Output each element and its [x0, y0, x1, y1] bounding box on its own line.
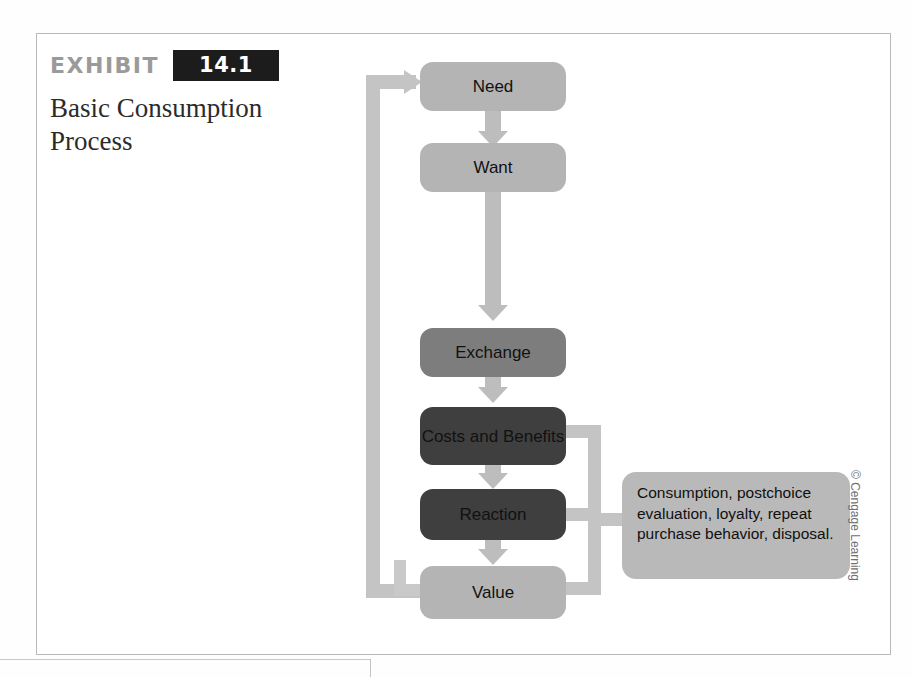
flow-node-costs-and-benefits: Costs and Benefits: [420, 407, 566, 465]
flow-node-value: Value: [420, 566, 566, 619]
flow-node-reaction: Reaction: [420, 489, 566, 540]
exhibit-title: Basic Consumption Process: [50, 92, 340, 158]
callout-bracket-arm-value: [560, 582, 601, 595]
page-fold-line-horizontal: [0, 659, 370, 660]
exhibit-number-badge: 14.1: [173, 50, 279, 81]
exhibit-header: EXHIBIT 14.1: [50, 50, 279, 81]
arrow-need-to-want-shaft: [485, 108, 501, 133]
callout-bracket-arm-reaction: [560, 508, 601, 521]
callout-consumption-outcomes: Consumption, postchoice evaluation, loya…: [622, 472, 850, 579]
arrow-costs-to-reaction-head: [478, 473, 508, 489]
page-fold-line-vertical: [370, 659, 371, 677]
arrow-exchange-to-costs-head: [478, 387, 508, 403]
exhibit-kicker-label: EXHIBIT: [50, 53, 159, 78]
arrow-want-to-exchange-head: [478, 305, 508, 321]
flow-node-exchange: Exchange: [420, 328, 566, 377]
arrow-reaction-to-value-head: [478, 549, 508, 565]
copyright-credit: © Cengage Learning: [848, 470, 862, 640]
flow-node-need: Need: [420, 62, 566, 111]
feedback-loop-vertical-segment: [366, 75, 380, 598]
flow-node-want: Want: [420, 143, 566, 192]
arrow-want-to-exchange-shaft: [485, 189, 501, 306]
callout-bracket-arm-costs: [560, 425, 601, 438]
